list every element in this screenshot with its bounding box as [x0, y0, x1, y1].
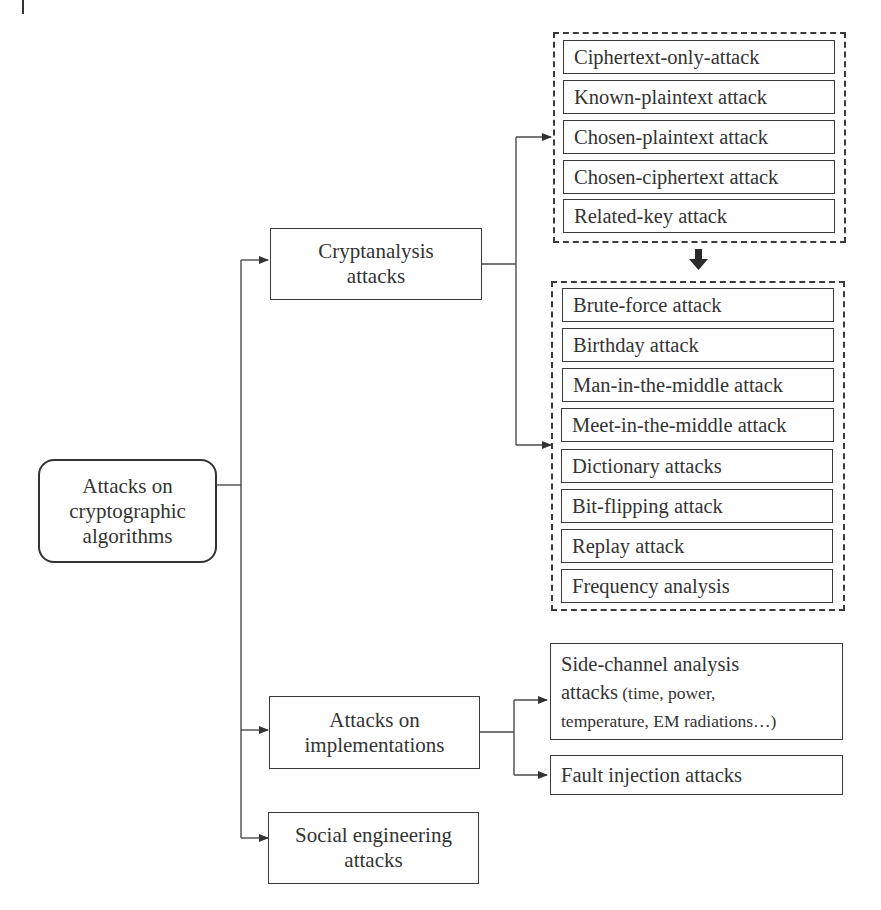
group-2-item: Bit-flipping attack	[561, 489, 833, 523]
root-node: Attacks on cryptographic algorithms	[38, 459, 217, 563]
group-1-item: Related-key attack	[563, 199, 835, 233]
root-label-line-1: Attacks on	[69, 474, 186, 499]
side-channel-line-3: temperature, EM radiations…)	[561, 707, 776, 735]
branch-implementations: Attacks on implementations	[269, 696, 480, 769]
root-label-line-2: cryptographic	[69, 499, 186, 524]
group-2-item: Dictionary attacks	[561, 449, 833, 483]
side-channel-line-2-main: attacks	[561, 681, 618, 703]
diagram-canvas: Attacks on cryptographic algorithms Cryp…	[0, 0, 881, 910]
branch-social-engineering: Social engineering attacks	[268, 812, 479, 884]
side-channel-node: Side-channel analysis attacks (time, pow…	[550, 643, 843, 740]
down-arrow-icon	[689, 249, 708, 270]
implementations-label-line-1: Attacks on	[305, 708, 445, 733]
group-2-item: Man-in-the-middle attack	[562, 368, 834, 402]
social-label-line-1: Social engineering	[295, 823, 452, 848]
side-channel-line-1: Side-channel analysis	[561, 650, 776, 678]
group-2-item: Meet-in-the-middle attack	[561, 408, 834, 442]
social-label-line-2: attacks	[295, 848, 452, 873]
group-1-item: Known-plaintext attack	[563, 80, 835, 114]
side-channel-line-2-detail: (time, power,	[618, 683, 715, 703]
group-1-item: Ciphertext-only-attack	[563, 40, 835, 74]
side-channel-line-2: attacks (time, power,	[561, 678, 776, 707]
branch-cryptanalysis: Cryptanalysis attacks	[270, 228, 482, 300]
group-1-item: Chosen-ciphertext attack	[563, 160, 835, 194]
group-2-item: Replay attack	[561, 529, 833, 563]
root-label-line-3: algorithms	[69, 524, 186, 549]
cryptanalysis-label-line-1: Cryptanalysis	[318, 239, 434, 264]
group-2-item: Birthday attack	[562, 328, 834, 362]
group-2-item: Frequency analysis	[561, 569, 833, 603]
group-2-item: Brute-force attack	[562, 288, 834, 322]
implementations-label-line-2: implementations	[305, 733, 445, 758]
group-1-item: Chosen-plaintext attack	[563, 120, 835, 154]
fault-injection-node: Fault injection attacks	[550, 755, 843, 795]
figure-caption-clipped	[36, 899, 366, 910]
cryptanalysis-label-line-2: attacks	[318, 264, 434, 289]
page-margin-mark	[22, 0, 24, 14]
